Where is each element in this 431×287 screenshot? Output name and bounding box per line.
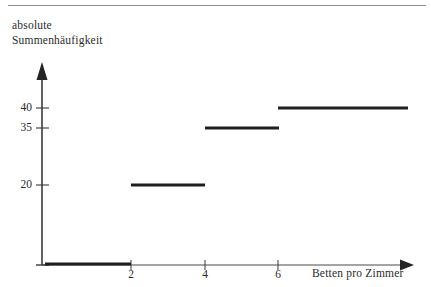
x-tick-label-2: 2 [121, 268, 141, 280]
figure-container: absolute Summenhäufigkeit [0, 0, 431, 287]
x-tick-label-6: 6 [268, 268, 288, 280]
chart-plot-area [0, 0, 431, 287]
y-tick-label-40: 40 [6, 101, 32, 113]
x-axis-title: Betten pro Zimmer [312, 267, 404, 279]
y-tick-label-35: 35 [6, 121, 32, 133]
y-tick-label-20: 20 [6, 178, 32, 190]
step-series [45, 108, 408, 264]
x-tick-label-4: 4 [195, 268, 215, 280]
y-axis [37, 62, 48, 265]
